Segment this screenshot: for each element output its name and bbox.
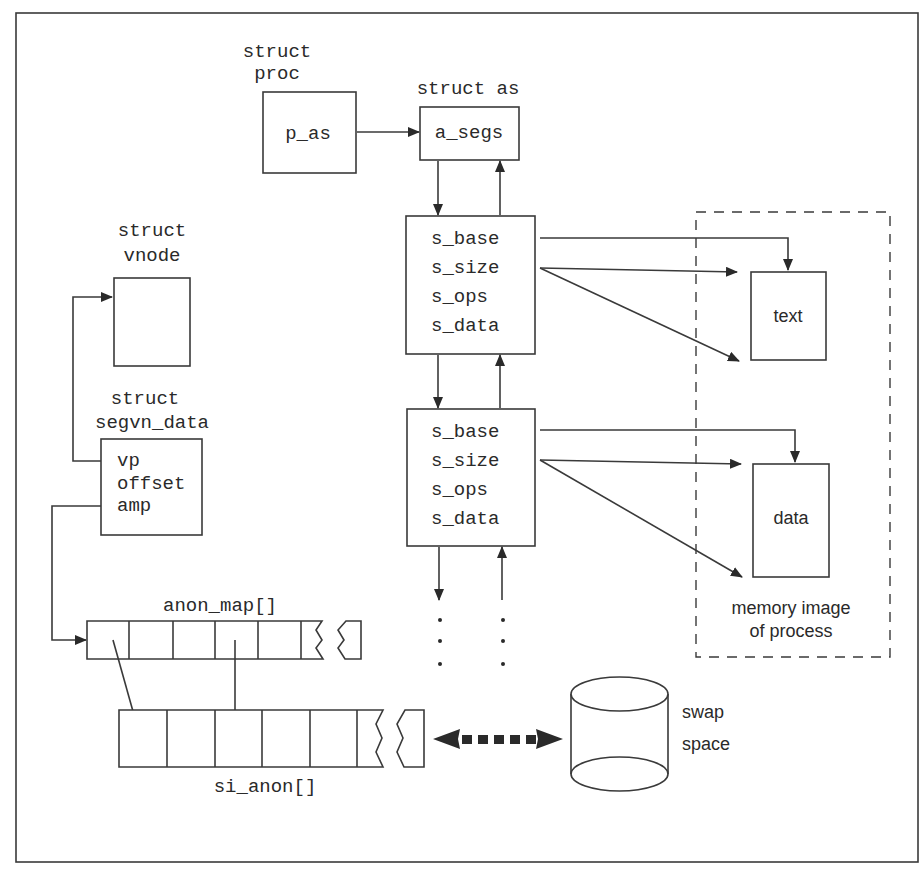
as-title: struct as — [417, 78, 520, 100]
segment-1: s_base s_size s_ops s_data — [406, 216, 535, 354]
data-segment-label: data — [773, 508, 809, 528]
swap-space-label-1: swap — [682, 702, 724, 722]
seg2-field-s-size: s_size — [431, 450, 499, 472]
si-anon-tail — [397, 710, 424, 767]
seg1-field-s-base: s_base — [431, 228, 499, 250]
struct-proc: struct proc p_as — [243, 41, 356, 173]
vnode-box — [114, 278, 190, 366]
arrow-seg2-base-to-data — [540, 430, 795, 462]
anon-map-body — [87, 621, 323, 659]
swap-transfer-arrow — [433, 729, 563, 749]
memory-image-label-2: of process — [749, 621, 832, 641]
swap-space-label-2: space — [682, 734, 730, 754]
segvn-title-line2: segvn_data — [95, 412, 209, 434]
continuation-dots — [438, 618, 505, 666]
arrow-seg1-size-end — [540, 268, 739, 361]
arrow-seg1-base-to-text — [540, 238, 788, 270]
segvn-field-vp: vp — [117, 450, 140, 472]
seg1-field-s-size: s_size — [431, 257, 499, 279]
struct-vnode: struct vnode — [114, 220, 190, 366]
anon-map-array: anon_map[] — [87, 595, 361, 659]
arrow-vp-to-vnode — [73, 297, 112, 461]
seg2-field-s-ops: s_ops — [431, 479, 488, 501]
swap-space-cylinder — [571, 677, 668, 791]
seg2-field-s-base: s_base — [431, 421, 499, 443]
segvn-title-line1: struct — [111, 388, 179, 410]
memory-image-label-1: memory image — [731, 598, 850, 618]
arrow-seg2-size-start — [540, 460, 741, 464]
segvn-field-amp: amp — [117, 495, 151, 517]
proc-field-p-as: p_as — [285, 123, 331, 145]
si-anon-body — [119, 710, 383, 767]
vnode-title-line2: vnode — [123, 245, 180, 267]
anon-map-tail — [338, 621, 361, 659]
proc-title-line1: struct — [243, 41, 311, 63]
struct-as: struct as a_segs — [417, 78, 520, 160]
as-field-a-segs: a_segs — [435, 122, 503, 144]
si-anon-label: si_anon[] — [214, 776, 317, 798]
proc-title-line2: proc — [254, 63, 300, 85]
text-segment-label: text — [773, 306, 802, 326]
segment-2: s_base s_size s_ops s_data — [407, 409, 535, 546]
arrow-seg1-size-start — [540, 268, 737, 272]
seg1-field-s-ops: s_ops — [431, 286, 488, 308]
si-anon-array: si_anon[] — [119, 710, 424, 798]
diagram-canvas: struct proc p_as struct as a_segs s_base… — [0, 0, 923, 881]
arrow-seg2-size-end — [540, 460, 742, 577]
seg2-field-s-data: s_data — [431, 508, 499, 530]
vnode-title-line1: struct — [118, 220, 186, 242]
arrow-amp-to-anon-map — [52, 506, 101, 640]
anon-map-label: anon_map[] — [163, 595, 277, 617]
seg1-field-s-data: s_data — [431, 315, 499, 337]
segvn-field-offset: offset — [117, 473, 185, 495]
struct-segvn-data: struct segvn_data vp offset amp — [95, 388, 209, 535]
